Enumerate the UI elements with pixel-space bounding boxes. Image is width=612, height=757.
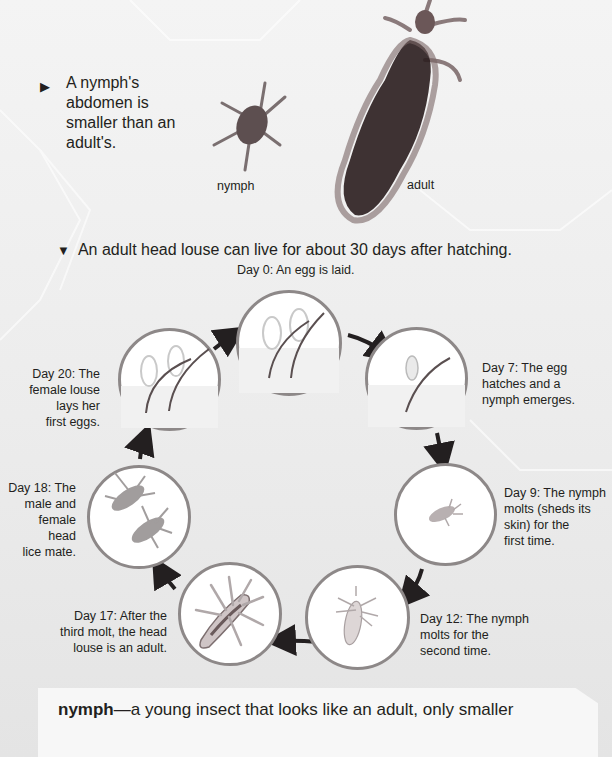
step-circle-day9 — [394, 463, 497, 566]
glossary-term: nymph — [58, 700, 114, 719]
glossary-definition: nymph—a young insect that looks like an … — [58, 700, 513, 720]
label-line: nymph emerges. — [482, 392, 575, 408]
label-line: skin) for the — [504, 517, 606, 533]
step-circle-day12 — [305, 565, 410, 670]
glossary-separator: — — [114, 700, 131, 719]
adult-louse-icon — [181, 565, 279, 663]
glossary-box: nymph—a young insect that looks like an … — [38, 688, 598, 757]
label-line: Day 20: The — [18, 366, 100, 382]
step-circle-day17 — [178, 562, 282, 666]
step-label-day18: Day 18: The male and female head lice ma… — [8, 480, 76, 560]
label-line: molts for the — [420, 627, 529, 643]
step-label-day12: Day 12: The nymph molts for the second t… — [420, 611, 529, 659]
label-line: Day 9: The nymph — [504, 485, 606, 501]
label-line: hatches and a — [482, 376, 575, 392]
label-line: first time. — [504, 533, 606, 549]
label-line: female louse — [18, 382, 100, 398]
step-circle-day7 — [365, 327, 468, 430]
step-label-day20: Day 20: The female louse lays her first … — [18, 366, 100, 430]
label-line: Day 18: The — [8, 480, 76, 496]
label-line: Day 17: After the — [60, 608, 167, 624]
label-line: lays her — [18, 398, 100, 414]
label-line: Day 7: The egg — [482, 360, 575, 376]
glossary-definition-text: a young insect that looks like an adult,… — [131, 700, 514, 719]
larger-nymph-icon — [308, 568, 407, 667]
eggs-on-hair-icon — [239, 293, 339, 393]
step-label-day7: Day 7: The egg hatches and a nymph emerg… — [482, 360, 575, 408]
label-line: louse is an adult. — [60, 640, 167, 656]
label-line: lice mate. — [8, 544, 76, 560]
label-line: first eggs. — [18, 414, 100, 430]
label-line: molts (sheds its — [504, 501, 606, 517]
step-label-day0: Day 0: An egg is laid. — [237, 262, 354, 278]
two-lice-icon — [90, 468, 188, 566]
label-line: female head — [8, 512, 76, 544]
step-circle-day20 — [118, 328, 221, 431]
step-label-day17: Day 17: After the third molt, the head l… — [60, 608, 167, 656]
label-line: second time. — [420, 643, 529, 659]
label-line: third molt, the head — [60, 624, 167, 640]
label-line: Day 12: The nymph — [420, 611, 529, 627]
label-line: male and — [8, 496, 76, 512]
small-nymph-icon — [397, 466, 494, 563]
eggs-on-hair-icon — [121, 331, 218, 428]
step-circle-day18 — [87, 465, 191, 569]
hatching-egg-icon — [368, 330, 465, 427]
step-circle-day0 — [236, 290, 342, 396]
step-label-day9: Day 9: The nymph molts (sheds its skin) … — [504, 485, 606, 549]
